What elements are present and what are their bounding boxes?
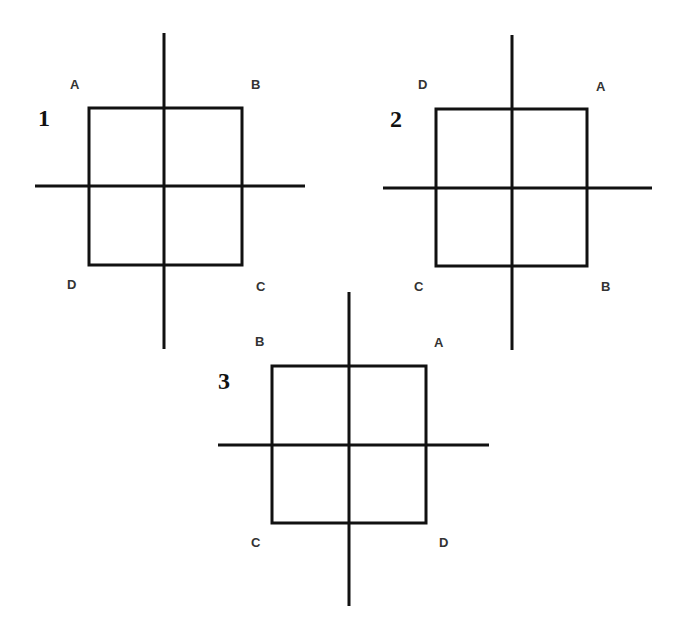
corner-label: B	[255, 334, 264, 349]
corner-label: A	[434, 335, 444, 350]
square-diagram-1: 1ABDC	[35, 33, 305, 349]
corner-label: C	[251, 535, 261, 550]
corner-label: C	[414, 279, 424, 294]
corner-label: C	[256, 279, 266, 294]
corner-label: A	[596, 79, 606, 94]
corner-label: B	[251, 77, 260, 92]
diagram-number: 3	[218, 368, 230, 394]
corner-label: D	[439, 535, 448, 550]
diagram-canvas: 1ABDC2DACB3BACD	[0, 0, 683, 638]
square-diagram-3: 3BACD	[218, 292, 489, 606]
corner-label: B	[601, 279, 610, 294]
diagram-number: 2	[390, 106, 402, 132]
square-diagram-2: 2DACB	[383, 35, 652, 350]
corner-label: D	[418, 77, 427, 92]
corner-label: D	[67, 277, 76, 292]
corner-label: A	[70, 77, 80, 92]
diagram-number: 1	[38, 105, 50, 131]
